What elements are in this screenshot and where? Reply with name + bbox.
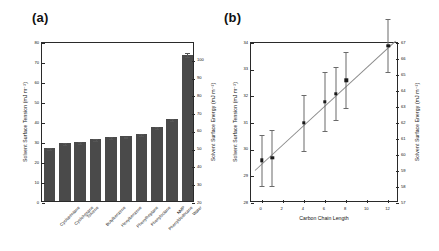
- category-label-9: Water: [192, 205, 204, 217]
- y2-tick-label-8: 100: [197, 57, 204, 62]
- bar-error-cap-4-1: [109, 139, 113, 140]
- x-tick-3: [325, 200, 326, 203]
- y-tick-label-7: 70: [28, 60, 39, 65]
- y2-tick-7: [192, 79, 195, 80]
- fit-line: [255, 40, 396, 170]
- bar-9: [182, 55, 194, 201]
- b-y2-tick-label-9: 66: [401, 56, 406, 61]
- panel-a: (a) Solvent Surface Tension (mJ m⁻²) Sol…: [0, 0, 212, 251]
- y2-tick-3: [192, 150, 195, 151]
- bar-8: [166, 119, 178, 201]
- b-y2-tick-3: [396, 155, 399, 156]
- x-tick-label-3: 6: [321, 206, 327, 211]
- b-y2-tick-0: [396, 203, 399, 204]
- b-y2-tick-6: [396, 107, 399, 108]
- b-y-tick-label-5: 33: [237, 66, 248, 71]
- error-cap-6-1: [386, 72, 391, 73]
- b-y2-tick-label-7: 64: [401, 88, 406, 93]
- error-cap-2-0: [301, 95, 306, 96]
- data-point-4: [334, 92, 337, 95]
- error-cap-0-1: [259, 186, 264, 187]
- bar-0: [44, 148, 56, 201]
- x-tick-label-1: 2: [279, 206, 285, 211]
- b-y-tick-label-0: 28: [237, 200, 248, 205]
- b-y2-tick-5: [396, 123, 399, 124]
- panel-b-y2-axis-title: Solvent Surface Energy (mJ m⁻²): [414, 42, 420, 202]
- b-y-tick-5: [251, 70, 254, 71]
- data-point-3: [323, 100, 326, 103]
- b-y2-tick-label-8: 65: [401, 72, 406, 77]
- data-point-1: [270, 156, 273, 159]
- bar-error-cap-9-0: [185, 53, 189, 54]
- bar-error-cap-0-1: [47, 150, 51, 151]
- b-y-tick-3: [251, 123, 254, 124]
- y-tick-label-6: 60: [28, 80, 39, 85]
- y2-tick-label-6: 80: [197, 93, 202, 98]
- error-cap-3-0: [323, 72, 328, 73]
- bar-error-cap-9-1: [185, 57, 189, 58]
- b-y2-tick-2: [396, 171, 399, 172]
- b-y2-tick-label-10: 67: [401, 40, 406, 45]
- y2-tick-label-3: 50: [197, 146, 202, 151]
- x-tick-label-0: 0: [258, 206, 264, 211]
- b-y-tick-4: [251, 96, 254, 97]
- y-tick-3: [42, 143, 45, 144]
- error-cap-1-1: [270, 186, 275, 187]
- error-cap-4-0: [333, 67, 338, 68]
- y2-tick-label-1: 30: [197, 182, 202, 187]
- b-y2-tick-1: [396, 187, 399, 188]
- y2-tick-label-2: 40: [197, 164, 202, 169]
- bar-error-cap-0-0: [47, 148, 51, 149]
- x-tick-5: [367, 200, 368, 203]
- error-cap-0-0: [259, 135, 264, 136]
- b-y2-tick-7: [396, 91, 399, 92]
- y-tick-label-3: 30: [28, 140, 39, 145]
- y-tick-label-4: 40: [28, 120, 39, 125]
- bar-error-cap-2-1: [78, 144, 82, 145]
- y2-tick-4: [192, 132, 195, 133]
- y2-tick-0: [192, 203, 195, 204]
- y-tick-label-0: 0: [28, 200, 39, 205]
- data-point-5: [344, 79, 347, 82]
- b-y2-tick-label-1: 58: [401, 184, 406, 189]
- y2-tick-label-0: 20: [197, 200, 202, 205]
- bar-error-cap-8-1: [170, 121, 174, 122]
- data-point-2: [302, 121, 305, 124]
- y-tick-6: [42, 83, 45, 84]
- bar-6: [136, 134, 148, 201]
- b-y-tick-1: [251, 176, 254, 177]
- error-cap-4-1: [333, 120, 338, 121]
- bar-2: [74, 142, 86, 201]
- b-y-tick-6: [251, 43, 254, 44]
- b-y2-tick-label-4: 61: [401, 136, 406, 141]
- x-tick-2: [304, 200, 305, 203]
- panel-a-label: (a): [32, 10, 49, 25]
- data-point-6: [387, 44, 390, 47]
- b-y-tick-label-1: 29: [237, 173, 248, 178]
- b-y2-tick-label-3: 60: [401, 152, 406, 157]
- bar-error-cap-7-0: [155, 127, 159, 128]
- b-y-tick-label-3: 31: [237, 120, 248, 125]
- y2-tick-5: [192, 114, 195, 115]
- b-y2-tick-label-0: 57: [401, 200, 406, 205]
- x-tick-1: [283, 200, 284, 203]
- bar-3: [90, 139, 102, 201]
- y-tick-2: [42, 163, 45, 164]
- panel-a-plot-area: [41, 42, 194, 202]
- x-tick-label-6: 12: [384, 206, 390, 211]
- b-y-tick-2: [251, 150, 254, 151]
- bar-error-cap-3-1: [93, 141, 97, 142]
- b-y2-tick-8: [396, 75, 399, 76]
- bar-error-cap-4-0: [109, 137, 113, 138]
- panel-b-label: (b): [224, 10, 241, 25]
- bar-error-cap-8-0: [170, 119, 174, 120]
- b-y2-tick-10: [396, 43, 399, 44]
- error-cap-6-0: [386, 19, 391, 20]
- b-y2-tick-label-5: 62: [401, 120, 406, 125]
- b-y2-tick-9: [396, 59, 399, 60]
- y2-tick-label-7: 90: [197, 75, 202, 80]
- x-tick-0: [262, 200, 263, 203]
- bar-error-cap-5-1: [124, 138, 128, 139]
- b-y2-tick-label-2: 59: [401, 168, 406, 173]
- b-y2-tick-4: [396, 139, 399, 140]
